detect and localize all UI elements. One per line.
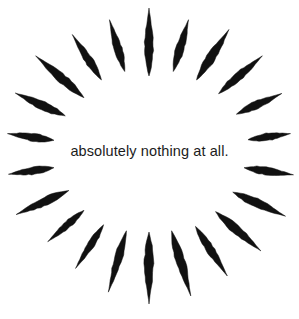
ray-15 [16, 190, 69, 214]
ray-8 [216, 212, 261, 251]
ray-0 [144, 8, 153, 76]
ray-10 [172, 231, 191, 296]
ray-9 [195, 226, 227, 276]
artwork-canvas: absolutely nothing at all. [0, 0, 299, 319]
ray-7 [233, 192, 286, 216]
ray-3 [219, 56, 263, 94]
ray-20 [72, 35, 101, 80]
ray-2 [197, 29, 229, 79]
ray-21 [109, 20, 124, 72]
ray-5 [248, 133, 291, 141]
ray-12 [108, 231, 126, 292]
ray-17 [7, 133, 54, 142]
ray-6 [244, 166, 293, 176]
ray-13 [76, 225, 104, 269]
ray-19 [36, 56, 84, 98]
ray-11 [144, 232, 154, 304]
ray-16 [8, 166, 54, 175]
center-caption-text: absolutely nothing at all. [0, 143, 299, 160]
ray-18 [15, 93, 65, 116]
ray-4 [236, 93, 281, 114]
ray-1 [173, 20, 188, 72]
ray-14 [48, 210, 84, 241]
